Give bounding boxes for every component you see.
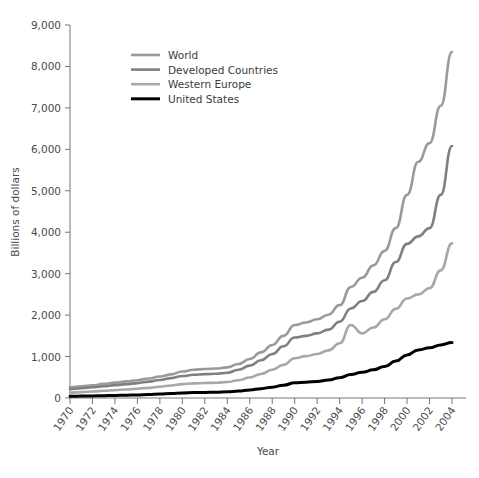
series-line-world	[70, 52, 452, 387]
x-tick-label: 2004	[432, 404, 457, 433]
y-tick-label: 6,000	[31, 143, 61, 155]
y-tick-label: 3,000	[31, 268, 61, 280]
x-tick-label: 1984	[208, 404, 233, 433]
x-tick-label: 2000	[388, 404, 413, 433]
x-axis-title: Year	[256, 445, 280, 457]
legend-label-world[interactable]: World	[168, 49, 198, 61]
y-tick-label: 4,000	[31, 226, 61, 238]
y-tick-label: 1,000	[31, 351, 61, 363]
x-tick-label: 1972	[73, 404, 98, 433]
x-tick-label: 1980	[163, 404, 188, 433]
y-tick-label: 0	[54, 392, 61, 404]
x-tick-label: 2002	[410, 404, 435, 433]
chart-legend: WorldDeveloped CountriesWestern EuropeUn…	[131, 49, 278, 105]
x-tick-label: 1978	[140, 404, 165, 433]
x-tick-label: 1982	[185, 404, 210, 433]
legend-label-united-states[interactable]: United States	[168, 93, 239, 105]
chart-figure: 01,0002,0003,0004,0005,0006,0007,0008,00…	[0, 0, 479, 478]
line-chart: 01,0002,0003,0004,0005,0006,0007,0008,00…	[0, 0, 479, 478]
x-tick-label: 1998	[365, 404, 390, 433]
y-tick-label: 5,000	[31, 185, 61, 197]
x-tick-label: 1990	[275, 404, 300, 433]
x-tick-label: 1994	[320, 404, 345, 433]
series-line-western-europe	[70, 243, 452, 392]
x-tick-label: 1988	[253, 404, 278, 433]
x-tick-label: 1992	[298, 404, 323, 433]
x-axis-ticks: 1970197219741976197819801982198419861988…	[50, 398, 457, 433]
x-tick-label: 1974	[95, 404, 120, 433]
y-tick-label: 7,000	[31, 102, 61, 114]
y-tick-label: 8,000	[31, 60, 61, 72]
y-tick-label: 2,000	[31, 309, 61, 321]
y-axis-title: Billions of dollars	[9, 167, 21, 256]
series-line-united-states	[70, 342, 452, 396]
legend-label-western-europe[interactable]: Western Europe	[168, 78, 251, 90]
x-tick-label: 1976	[118, 404, 143, 433]
x-tick-label: 1970	[50, 404, 75, 433]
data-series-group	[70, 52, 452, 396]
legend-label-developed-countries[interactable]: Developed Countries	[168, 64, 278, 76]
y-axis-ticks: 01,0002,0003,0004,0005,0006,0007,0008,00…	[31, 19, 70, 404]
y-tick-label: 9,000	[31, 19, 61, 31]
x-tick-label: 1986	[230, 404, 255, 433]
x-tick-label: 1996	[343, 404, 368, 433]
